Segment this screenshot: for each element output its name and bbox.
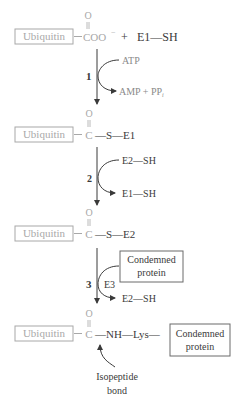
protein-label-line1: Condemned	[176, 328, 224, 339]
ubiquitination-diagram: Ubiquitin O COO − + E1—SH 1 ATP AMP + PP…	[0, 0, 245, 403]
step-number: 2	[87, 173, 92, 184]
carbonyl-oxygen: O	[84, 10, 91, 21]
e2-sh-label: E2—SH	[122, 293, 156, 304]
step-number: 1	[86, 70, 92, 82]
carbonyl-oxygen: O	[85, 207, 92, 218]
annotation-line2: bond	[107, 385, 127, 396]
amp-ppi-label: AMP + PPi	[119, 86, 164, 98]
curved-arrow	[98, 60, 119, 91]
row-2-ubiquitin-e1-thioester: Ubiquitin O C —S—E1	[15, 108, 135, 142]
curved-arrow	[98, 160, 119, 193]
carbon: C	[85, 328, 92, 340]
carbonyl-oxygen: O	[85, 308, 92, 319]
protein-label-line2: protein	[137, 267, 165, 278]
e2-sh-label: E2—SH	[122, 155, 156, 166]
carbon: C	[85, 129, 92, 141]
carbonyl-oxygen: O	[85, 108, 92, 119]
annotation-line1: Isopeptide	[96, 371, 138, 382]
row-3-ubiquitin-e2-thioester: Ubiquitin O C —S—E2	[15, 207, 135, 241]
e1-sh-label: E1—SH	[122, 188, 156, 199]
ubiquitin-label: Ubiquitin	[23, 30, 66, 42]
e1-sh: E1—SH	[137, 30, 178, 44]
carbon: C	[85, 228, 92, 240]
row-1-ubiquitin-carboxylate: Ubiquitin O COO − + E1—SH	[15, 10, 178, 44]
protein-label-line1: Condemned	[127, 254, 175, 265]
thioester-linkage: —S—E2	[94, 228, 135, 240]
step-number: 3	[86, 278, 92, 290]
ubiquitin-label: Ubiquitin	[23, 327, 66, 339]
protein-label-line2: protein	[186, 341, 214, 352]
isopeptide-linkage: —NH—Lys—	[94, 328, 161, 340]
row-4-ubiquitinated-protein: Ubiquitin O C —NH—Lys— Condemned protein	[15, 308, 230, 356]
negative-charge: −	[111, 28, 116, 37]
thioester-linkage: —S—E1	[94, 129, 135, 141]
ubiquitin-label: Ubiquitin	[23, 227, 66, 239]
e3-label: E3	[104, 279, 115, 290]
step-1: 1 ATP AMP + PPi	[86, 49, 164, 104]
plus-sign: +	[121, 30, 128, 44]
step-2: 2 E2—SH E1—SH	[87, 147, 156, 205]
carboxylate-group: COO	[83, 31, 106, 43]
isopeptide-bond-annotation: Isopeptide bond	[96, 345, 138, 396]
step-3: 3 Condemned protein E3 E2—SH	[86, 248, 183, 304]
annotation-arrow	[100, 345, 115, 367]
ubiquitin-label: Ubiquitin	[23, 128, 66, 140]
atp-label: ATP	[122, 55, 140, 66]
